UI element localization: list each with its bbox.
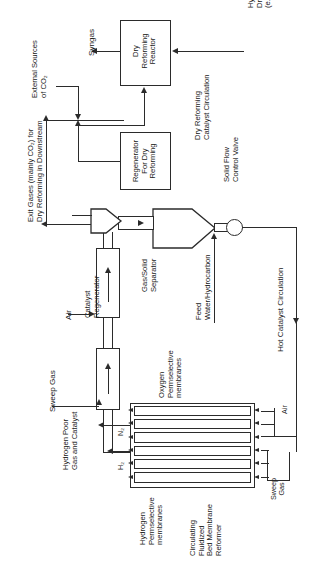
air-right-branch-3	[261, 436, 275, 437]
hydrocarbon-feed-label: Hydrocarbon for Dry Reforming (e.g., Nat…	[247, 0, 273, 8]
membrane-tube-5-left-arrow	[128, 461, 133, 465]
syngas-label: Syngas	[87, 29, 96, 56]
exit-gases-label: Exit Gases (mainly CO₂) for Dry Reformin…	[27, 120, 44, 222]
air-right-branch-2	[261, 424, 275, 425]
membrane-tube-1-left-arrow	[128, 408, 133, 412]
membrane-tube-1-right-arrow	[254, 408, 259, 412]
membrane-tube-5	[134, 459, 251, 469]
catalyst-regenerator-flow-arrowhead	[105, 267, 111, 273]
membrane-tube-4	[134, 446, 251, 456]
membrane-tube-2-right-arrow	[254, 421, 259, 425]
riser-cyclone-head	[90, 208, 124, 234]
membrane-tube-6-right-arrow	[254, 475, 259, 479]
regen-to-reactor-riser	[144, 93, 145, 126]
regenerator-outlet-riser	[78, 125, 79, 161]
exit-gas-manifold	[46, 120, 47, 225]
air-right-label: Air	[281, 405, 289, 414]
gas-solid-separator-shape	[152, 208, 218, 252]
external-hydrogen-separator-inner-flow	[108, 368, 109, 394]
membrane-tube-4-right-arrow	[254, 448, 259, 452]
sweep-gas-left-line	[52, 406, 99, 407]
sweep-gas-left-label: Sweep Gas	[48, 370, 57, 412]
reformer-to-riser-line	[103, 452, 131, 453]
membrane-tube-6-left-arrow	[128, 475, 133, 479]
h2-label: H₂	[117, 462, 125, 470]
junction-to-riser-line	[78, 125, 145, 126]
sweep-gas-right-branch-1	[261, 450, 269, 451]
air-left-label: Air	[64, 310, 73, 320]
catalyst-regenerator-inner-flow	[108, 272, 109, 302]
gas-solid-separator-label: Gas/Solid Separator	[141, 259, 158, 292]
membrane-tube-3-left-arrow	[128, 435, 133, 439]
exit-gas-top-branch	[46, 120, 124, 121]
exit-gas-bottom-branch	[46, 224, 96, 225]
sweep-gas-right-drop	[289, 452, 290, 481]
syngas-line	[97, 51, 120, 52]
sweep-gas-right-header	[267, 450, 268, 480]
solid-flow-control-valve-label: Solid Flow Control Valve	[223, 137, 240, 182]
solid-flow-control-valve[interactable]	[226, 219, 243, 236]
membrane-tube-2	[134, 419, 251, 429]
oxygen-permselective-membranes-label: Oxygen Permselective membranes	[158, 350, 184, 398]
hydrocarbon-feed-line	[178, 51, 244, 52]
air-right-feed-line	[274, 436, 296, 437]
membrane-tube-5-right-arrow	[254, 461, 259, 465]
hot-catalyst-down-line	[296, 227, 297, 452]
membrane-tube-2-left-arrow	[128, 421, 133, 425]
membrane-tube-6	[134, 472, 251, 483]
regen-to-reactor-arrowhead	[141, 87, 147, 93]
exit-gas-top-arrowhead	[43, 115, 49, 121]
dry-reforming-catalyst-circulation-label: Dry Reforming Catalyst Circulation	[194, 75, 211, 140]
hot-catalyst-arrowhead	[293, 318, 299, 324]
hydrogen-permselective-membranes-label: Hydrogen Permselective membranes	[139, 497, 165, 545]
membrane-tube-3-right-arrow	[254, 435, 259, 439]
external-co2-label: External Sources of CO₂	[31, 40, 48, 98]
n2-label: N₂	[117, 428, 125, 436]
feed-water-hydrocarbon-label: Feed Water/Hydrocarbon	[195, 254, 212, 320]
membrane-tube-3	[134, 432, 251, 443]
membrane-tube-1	[134, 406, 251, 416]
sweep-gas-left-arrowhead	[96, 399, 102, 405]
hydrocarbon-feed-arrowhead	[172, 48, 178, 54]
n2-offtake-line	[103, 425, 130, 426]
sweep-gas-right-branch-2	[261, 463, 269, 464]
process-flow-diagram: Dry Reforming Reactor Syngas Hydrocarbon…	[0, 0, 315, 561]
hot-catalyst-circulation-label: Hot Catalyst Circulation	[276, 267, 285, 352]
gas-solid-separator-inlet-arrowhead	[138, 220, 144, 226]
air-right-branch-1	[261, 411, 275, 412]
dry-reforming-reactor-label: Dry Reforming Reactor	[132, 22, 158, 80]
feed-water-hydrocarbon-arrowhead	[211, 233, 217, 239]
sweep-gas-right-label: Sweep Gas	[270, 478, 286, 500]
valve-to-hot-catalyst-line	[242, 227, 297, 228]
feed-water-hydrocarbon-line	[214, 238, 215, 323]
regenerator-outlet-line	[78, 161, 121, 162]
air-left-arrowhead	[89, 311, 95, 317]
regenerator-label: Regenerator For Dry Reforming	[132, 136, 158, 186]
external-co2-stub	[56, 86, 79, 87]
external-hydrogen-separator-flow-arrowhead	[105, 363, 111, 369]
hydrogen-poor-gas-label: Hydrogen Poor Gas and Catalyst	[62, 412, 79, 470]
sweep-gas-right-branch-3	[261, 477, 269, 478]
external-co2-drop	[78, 86, 79, 116]
n2-offtake-arrowhead	[98, 422, 104, 428]
cfb-membrane-reformer-label: Circulating Fluidized Bed Membrane Refor…	[189, 504, 223, 556]
riser-cyclone-outlet	[72, 215, 92, 216]
